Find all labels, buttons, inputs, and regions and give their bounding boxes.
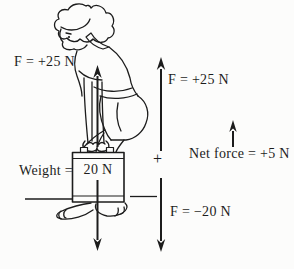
- net-force-arrow: [229, 120, 236, 147]
- applied-force-arrow-up: [157, 57, 165, 151]
- box-weight-value: 20 N: [72, 162, 124, 177]
- lift-force-arrow-up: [93, 65, 101, 147]
- label-weight: Weight =: [19, 163, 73, 178]
- label-opposing-force: F = −20 N: [170, 204, 231, 219]
- person-hair: [55, 4, 115, 42]
- person-feet: [57, 203, 93, 219]
- opposing-force-arrow-down: [157, 178, 165, 252]
- person-back: [109, 47, 138, 96]
- label-applied-force: F = +25 N: [168, 72, 229, 87]
- figure-drawing: [0, 0, 294, 269]
- label-net-force: Net force = +5 N: [189, 146, 290, 161]
- person-arms: [84, 78, 88, 143]
- plus-sign: +: [153, 151, 162, 166]
- person-shorts: [111, 96, 148, 140]
- label-lift-force: F = +25 N: [14, 54, 75, 69]
- physics-net-force-diagram: F = +25 N F = +25 N Weight = 20 N + Net …: [0, 0, 294, 269]
